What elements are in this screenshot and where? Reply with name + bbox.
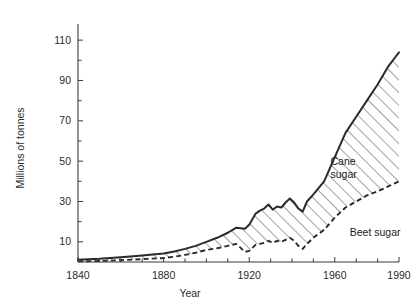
svg-text:10: 10 — [59, 235, 71, 247]
svg-text:50: 50 — [59, 155, 71, 167]
sugar-production-chart: 1030507090110 18401880192019601990 Canes… — [0, 0, 420, 308]
chart-figure: 1030507090110 18401880192019601990 Canes… — [0, 0, 420, 308]
x-axis-tick-labels: 18401880192019601990 — [66, 269, 411, 281]
y-axis-tick-labels: 1030507090110 — [54, 34, 71, 248]
svg-text:30: 30 — [59, 195, 71, 207]
svg-text:1880: 1880 — [152, 269, 176, 281]
svg-text:Beet sugar: Beet sugar — [350, 226, 401, 238]
svg-text:1840: 1840 — [66, 269, 90, 281]
svg-text:1920: 1920 — [238, 269, 262, 281]
svg-text:110: 110 — [54, 34, 71, 46]
svg-text:1960: 1960 — [323, 269, 347, 281]
svg-text:sugar: sugar — [331, 168, 358, 180]
y-axis-title: Millions of tonnes — [14, 107, 26, 188]
svg-text:Cane: Cane — [331, 155, 356, 167]
svg-text:90: 90 — [59, 74, 71, 86]
svg-text:70: 70 — [59, 114, 71, 126]
x-axis-title: Year — [179, 287, 201, 299]
svg-text:1990: 1990 — [387, 269, 411, 281]
